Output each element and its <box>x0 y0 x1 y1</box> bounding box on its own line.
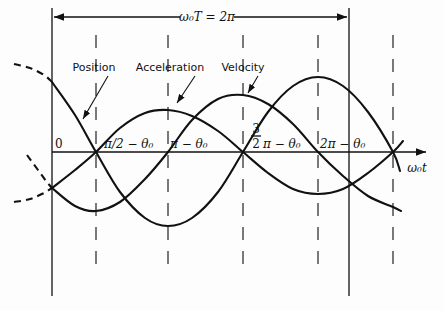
position-curve-extension <box>14 64 52 82</box>
velocity-leader <box>248 76 258 93</box>
tick-label-two-pi-minus-theta: 2π − θ₀ <box>319 137 365 151</box>
tick-label-three-halves-den: 2 <box>252 137 260 151</box>
velocity-label: Velocity <box>221 61 265 74</box>
tick-label-three-halves-pi-minus-theta: π − θ₀ <box>262 137 301 151</box>
acceleration-label: Acceleration <box>136 61 204 74</box>
tick-label-origin: 0 <box>55 137 63 151</box>
acceleration-curve-extension <box>14 188 52 202</box>
tick-label-pi-half-minus-theta: π/2 − θ₀ <box>103 137 153 151</box>
velocity-curve-extension <box>27 155 52 188</box>
acceleration-leader <box>177 76 195 103</box>
time-axis-label: ω₀t <box>407 161 427 175</box>
position-label: Position <box>73 61 116 74</box>
oscillation-phase-diagram: ω₀T = 2π ω₀t 0 π/2 − θ₀ π − θ₀ 3 2 π − θ… <box>0 0 444 311</box>
diagram-canvas: ω₀T = 2π ω₀t 0 π/2 − θ₀ π − θ₀ 3 2 π − θ… <box>0 0 444 311</box>
period-label: ω₀T = 2π <box>179 10 236 24</box>
